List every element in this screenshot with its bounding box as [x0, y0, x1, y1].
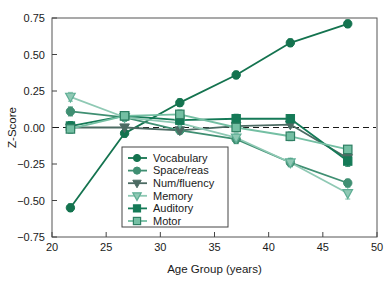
legend-label-num-fluency[interactable]: Num/fluency — [153, 177, 215, 189]
data-point-marker — [344, 179, 352, 187]
y-tick-label: 0.50 — [24, 49, 45, 61]
x-tick-label: 50 — [371, 241, 383, 253]
data-point-marker — [176, 98, 184, 106]
data-point-marker — [133, 154, 140, 161]
y-tick-label: −0.75 — [17, 231, 45, 243]
data-point-marker — [344, 145, 352, 153]
data-point-marker — [176, 110, 184, 118]
data-point-marker — [120, 112, 128, 120]
x-tick-label: 20 — [46, 241, 58, 253]
x-tick-label: 25 — [100, 241, 112, 253]
data-point-marker — [133, 205, 140, 212]
y-tick-label: −0.25 — [17, 158, 45, 170]
data-point-marker — [286, 115, 294, 123]
data-point-marker — [343, 190, 353, 199]
y-tick-label: 0.00 — [24, 122, 45, 134]
data-point-marker — [66, 204, 74, 212]
figure-panel: 20253035404550−0.75−0.50−0.250.000.250.5… — [0, 0, 390, 283]
legend-label-space-reas[interactable]: Space/reas — [153, 164, 209, 176]
x-tick-label: 40 — [263, 241, 275, 253]
x-tick-label: 30 — [154, 241, 166, 253]
legend-label-auditory[interactable]: Auditory — [153, 202, 194, 214]
data-point-marker — [66, 125, 74, 133]
legend-label-vocabulary[interactable]: Vocabulary — [153, 152, 208, 164]
data-point-marker — [133, 217, 140, 224]
data-point-marker — [133, 167, 140, 174]
data-point-marker — [232, 115, 240, 123]
y-tick-label: 0.25 — [24, 85, 45, 97]
data-point-marker — [286, 132, 294, 140]
data-point-marker — [286, 39, 294, 47]
x-axis-title: Age Group (years) — [167, 263, 262, 275]
data-point-marker — [344, 20, 352, 28]
data-point-marker — [232, 71, 240, 79]
x-tick-label: 45 — [317, 241, 329, 253]
data-point-marker — [344, 157, 352, 165]
data-point-marker — [232, 123, 240, 131]
x-tick-label: 35 — [208, 241, 220, 253]
data-point-marker — [66, 107, 74, 115]
z-score-line-chart: 20253035404550−0.75−0.50−0.250.000.250.5… — [0, 0, 390, 283]
y-tick-label: 0.75 — [24, 12, 45, 24]
y-tick-label: −0.50 — [17, 195, 45, 207]
legend-label-memory[interactable]: Memory — [153, 190, 193, 202]
legend-label-motor[interactable]: Motor — [153, 215, 181, 227]
y-axis-title: Z-Score — [6, 107, 18, 148]
